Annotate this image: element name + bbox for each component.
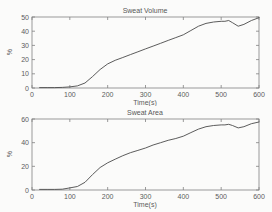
- y-tick-label: 10: [21, 70, 29, 77]
- y-tick-label: 60: [21, 116, 29, 123]
- y-tick-label: 50: [21, 14, 29, 21]
- data-line: [40, 122, 259, 189]
- x-axis-label: Time(s): [133, 99, 156, 106]
- y-axis-label: %: [6, 49, 13, 55]
- data-line: [40, 18, 259, 88]
- x-tick-label: 400: [177, 193, 189, 200]
- figure: 010020030040050060001020304050 Sweat Vol…: [0, 0, 272, 212]
- sweat-volume-plot: 010020030040050060001020304050 Sweat Vol…: [0, 0, 272, 106]
- x-tick-label: 100: [64, 193, 76, 200]
- x-tick-label: 300: [140, 193, 152, 200]
- x-axis-label: Time(s): [133, 201, 156, 209]
- chart-title: Sweat Volume: [123, 7, 168, 14]
- x-tick-label: 0: [30, 193, 34, 200]
- y-tick-label: 40: [21, 139, 29, 146]
- plot-box: [32, 119, 259, 190]
- x-tick-label: 200: [102, 91, 114, 98]
- y-tick-label: 20: [21, 163, 29, 170]
- x-tick-label: 300: [140, 91, 152, 98]
- x-tick-label: 200: [102, 193, 114, 200]
- chart-sweat-area: 01002003004005006000204060 Sweat Area Ti…: [0, 106, 272, 212]
- x-tick-label: 600: [253, 91, 265, 98]
- chart-sweat-volume: 010020030040050060001020304050 Sweat Vol…: [0, 0, 272, 106]
- x-tick-label: 0: [30, 91, 34, 98]
- x-tick-label: 100: [64, 91, 76, 98]
- y-axis-label: %: [6, 151, 13, 157]
- y-tick-label: 40: [21, 28, 29, 35]
- x-tick-label: 400: [177, 91, 189, 98]
- x-tick-label: 600: [253, 193, 265, 200]
- x-tick-label: 500: [215, 193, 227, 200]
- y-tick-label: 0: [25, 85, 29, 92]
- chart-title: Sweat Area: [127, 109, 163, 116]
- sweat-area-plot: 01002003004005006000204060 Sweat Area Ti…: [0, 106, 272, 212]
- y-tick-label: 20: [21, 56, 29, 63]
- plot-box: [32, 17, 259, 88]
- x-tick-label: 500: [215, 91, 227, 98]
- y-tick-label: 0: [25, 187, 29, 194]
- y-tick-label: 30: [21, 42, 29, 49]
